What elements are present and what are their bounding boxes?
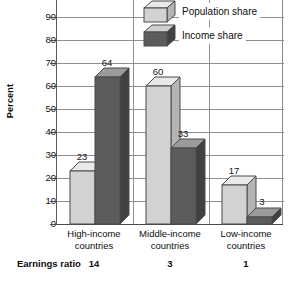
bar-value-population-middle-income: 60 [138,67,178,77]
legend: Population share Income share [143,0,289,48]
earnings-ratio-value-low-income: 1 [231,258,261,269]
legend-label-population-share: Population share [179,3,260,20]
bar-population-high-income[interactable] [70,171,95,224]
bar-income-low-income[interactable] [247,217,272,224]
category-label-low-income-line2: countries [208,240,284,252]
bar-value-income-middle-income: 33 [163,129,203,139]
earnings-ratio-row: Earnings ratio 14 3 1 [0,258,295,278]
earnings-ratio-value-middle-income: 3 [155,258,185,269]
y-axis-title: Percent [5,84,15,118]
bar-value-income-high-income: 64 [87,58,127,68]
category-label-low-income: Low-income countries [208,228,284,251]
legend-item-income-share[interactable]: Income share [143,24,289,48]
category-label-middle-income-line1: Middle-income [132,228,208,240]
bar-value-population-low-income: 17 [214,166,254,176]
category-label-high-income-line2: countries [56,240,132,252]
category-label-middle-income: Middle-income countries [132,228,208,251]
legend-item-population-share[interactable]: Population share [143,0,289,24]
category-label-low-income-line1: Low-income [208,228,284,240]
bar-value-income-low-income: 3 [242,197,282,207]
bar-income-middle-income[interactable] [171,148,196,224]
dark-cube-icon [143,24,177,48]
earnings-ratio-label: Earnings ratio [17,258,81,269]
bar-population-middle-income[interactable] [146,86,171,224]
earnings-ratio-value-high-income: 14 [79,258,109,269]
x-axis-baseline [56,224,283,225]
category-label-middle-income-line2: countries [132,240,208,252]
chart-figure: 90 80 70 60 50 40 30 20 10 0 Percent [0,0,295,281]
bar-income-high-income[interactable] [95,77,120,224]
light-cube-icon [143,0,177,24]
category-label-high-income-line1: High-income [56,228,132,240]
legend-label-income-share: Income share [179,27,246,44]
category-label-high-income: High-income countries [56,228,132,251]
